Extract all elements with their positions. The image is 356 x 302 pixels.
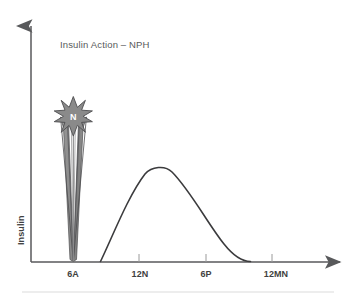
- nph-onset-spike: [61, 117, 87, 262]
- nph-action-curve: [101, 167, 251, 261]
- page-title: Insulin Action – NPH: [60, 39, 150, 50]
- chart-canvas: Insulin Action – NPH Insulin 6A 12N 6P 1…: [0, 0, 356, 302]
- star-burst-icon: N: [54, 97, 92, 137]
- y-axis-title: Insulin: [16, 215, 26, 245]
- star-burst-label: N: [70, 112, 77, 122]
- x-tick-label-6a: 6A: [67, 269, 79, 279]
- x-tick-label-12n: 12N: [132, 269, 149, 279]
- x-tick-label-6p: 6P: [200, 269, 211, 279]
- insulin-action-chart-figure: Insulin Action – NPH Insulin 6A 12N 6P 1…: [0, 0, 356, 302]
- x-tick-label-12mn: 12MN: [264, 269, 288, 279]
